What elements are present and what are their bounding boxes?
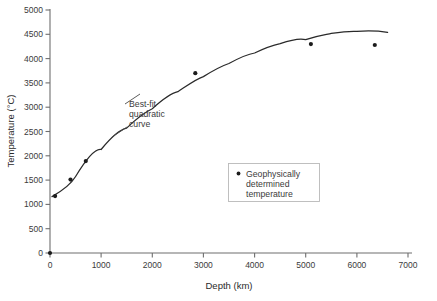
data-point — [68, 178, 72, 182]
annotation-line-2: quadratic — [129, 109, 165, 119]
y-tick-label-3500: 3500 — [24, 78, 43, 88]
legend-label-line-2: determined — [246, 179, 290, 189]
x-tick-label-7000: 7000 — [399, 260, 418, 270]
x-axis: 0 1000 2000 3000 4000 5000 6000 7000 Dep… — [48, 253, 418, 291]
y-tick-label-0: 0 — [38, 248, 43, 258]
data-point — [48, 251, 52, 255]
legend[interactable]: Geophysically determined temperature — [229, 164, 320, 202]
chart-container: 0 500 1000 1500 2000 2500 3000 3500 4000… — [0, 0, 437, 301]
y-tick-label-3000: 3000 — [24, 102, 43, 112]
best-fit-curve-group — [52, 31, 388, 197]
data-point — [53, 194, 57, 198]
data-point — [84, 159, 88, 163]
best-fit-quadratic-curve — [52, 31, 388, 197]
annotation-line-3: curve — [129, 119, 150, 129]
temperature-depth-chart: 0 500 1000 1500 2000 2500 3000 3500 4000… — [0, 0, 437, 301]
y-axis-title: Temperature (°C) — [5, 95, 16, 168]
x-tick-label-2000: 2000 — [143, 260, 162, 270]
data-point — [193, 71, 197, 75]
legend-dot-marker — [237, 172, 241, 176]
y-tick-label-4500: 4500 — [24, 29, 43, 39]
x-tick-label-1000: 1000 — [92, 260, 111, 270]
y-tick-label-1500: 1500 — [24, 175, 43, 185]
y-tick-label-2500: 2500 — [24, 127, 43, 137]
x-tick-label-4000: 4000 — [245, 260, 264, 270]
legend-label-line-1: Geophysically — [246, 169, 301, 179]
y-tick-label-500: 500 — [29, 224, 43, 234]
y-tick-label-1000: 1000 — [24, 199, 43, 209]
y-axis: 0 500 1000 1500 2000 2500 3000 3500 4000… — [5, 5, 50, 258]
y-tick-label-5000: 5000 — [24, 5, 43, 15]
data-point-series — [48, 42, 377, 255]
legend-label-line-3: temperature — [246, 189, 293, 199]
x-tick-label-3000: 3000 — [194, 260, 213, 270]
x-tick-label-5000: 5000 — [296, 260, 315, 270]
y-tick-label-4000: 4000 — [24, 54, 43, 64]
annotation-line-1: Best-fit — [129, 99, 157, 109]
data-point — [309, 42, 313, 46]
data-point — [373, 43, 377, 47]
y-tick-label-2000: 2000 — [24, 151, 43, 161]
x-tick-label-6000: 6000 — [347, 260, 366, 270]
annotation-leader-lower — [112, 127, 127, 137]
x-axis-title: Depth (km) — [206, 280, 253, 291]
x-tick-label-0: 0 — [48, 260, 53, 270]
